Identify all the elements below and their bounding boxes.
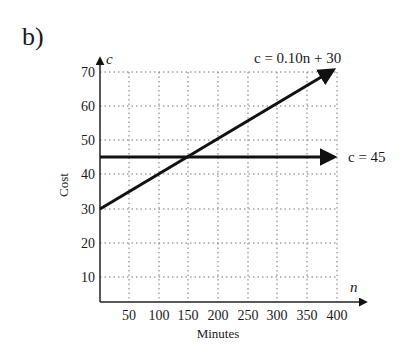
x-tick: 150 bbox=[178, 308, 199, 323]
equation-label-horizontal: c = 45 bbox=[348, 149, 386, 165]
equation-label-sloped: c = 0.10n + 30 bbox=[254, 50, 341, 66]
y-tick: 60 bbox=[81, 99, 95, 114]
x-tick: 350 bbox=[297, 308, 318, 323]
cost-vs-minutes-chart: 70 60 50 40 30 20 10 50 100 150 200 250 … bbox=[0, 0, 409, 357]
y-tick: 50 bbox=[81, 133, 95, 148]
x-tick: 400 bbox=[327, 308, 348, 323]
x-axis-variable: n bbox=[350, 279, 358, 295]
y-tick: 20 bbox=[81, 236, 95, 251]
x-tick: 50 bbox=[122, 308, 136, 323]
x-axis-label: Minutes bbox=[197, 326, 240, 341]
y-axis-label: Cost bbox=[56, 173, 71, 197]
x-tick: 100 bbox=[149, 308, 170, 323]
y-tick: 30 bbox=[81, 202, 95, 217]
y-tick: 10 bbox=[81, 270, 95, 285]
y-axis-variable: c bbox=[106, 51, 113, 67]
x-tick: 200 bbox=[208, 308, 229, 323]
x-tick-labels: 50 100 150 200 250 300 350 400 bbox=[122, 308, 348, 323]
x-tick: 300 bbox=[267, 308, 288, 323]
y-tick-labels: 70 60 50 40 30 20 10 bbox=[81, 65, 95, 285]
y-tick: 70 bbox=[81, 65, 95, 80]
y-tick: 40 bbox=[81, 167, 95, 182]
x-tick: 250 bbox=[238, 308, 259, 323]
